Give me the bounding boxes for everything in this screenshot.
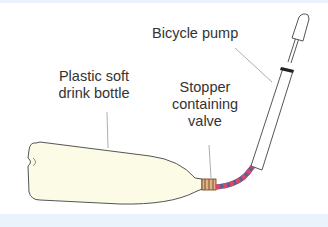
stopper-leader-line (209, 145, 211, 178)
bottle-label-line2: drink bottle (48, 85, 140, 102)
bottle-label-line1: Plastic soft (48, 68, 140, 85)
stopper-label-line3: valve (162, 113, 248, 130)
stopper-valve-icon (202, 179, 216, 190)
connecting-tube-icon (216, 165, 254, 187)
diagram-frame: Bicycle pump Plastic soft drink bottle S… (0, 0, 328, 227)
stopper-label-line2: containing (162, 96, 248, 113)
stopper-label: Stopper containing valve (162, 79, 248, 130)
pump-leader-line (235, 48, 272, 82)
stopper-label-line1: Stopper (162, 79, 248, 96)
bottle-icon (28, 142, 202, 204)
bottle-leader-line (107, 112, 108, 148)
bottle-label: Plastic soft drink bottle (48, 68, 140, 102)
bicycle-pump-icon (251, 14, 309, 170)
bicycle-pump-label: Bicycle pump (152, 25, 238, 42)
